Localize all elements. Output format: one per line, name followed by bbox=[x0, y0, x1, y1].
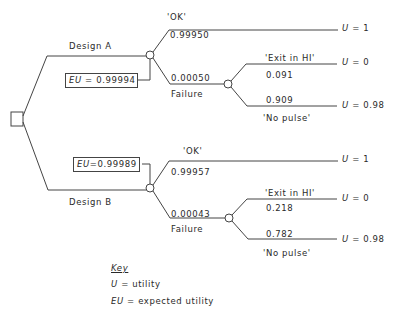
failure-prob-a: 0.00050 bbox=[171, 74, 210, 83]
key-item-eu: EU = expected utility bbox=[111, 297, 214, 306]
chance-node-failure-a bbox=[224, 80, 232, 88]
key-item-u: U = utility bbox=[111, 280, 161, 289]
decision-node-square bbox=[11, 112, 23, 126]
exit-prob-b: 0.218 bbox=[266, 204, 293, 213]
utility-no-pulse-a: U = 0.98 bbox=[342, 101, 385, 110]
design-b-label: Design B bbox=[69, 198, 112, 207]
chance-node-design-a bbox=[146, 51, 154, 59]
utility-exit-a: U = 0 bbox=[342, 58, 369, 67]
no-pulse-label-b: 'No pulse' bbox=[263, 249, 311, 258]
no-pulse-prob-b: 0.782 bbox=[266, 230, 293, 239]
chance-node-failure-b bbox=[225, 214, 233, 222]
eu-box-design-a: EU = 0.99994 bbox=[65, 73, 138, 88]
utility-ok-a: U = 1 bbox=[342, 24, 369, 33]
failure-label-a: Failure bbox=[171, 90, 203, 99]
chance-node-design-b bbox=[146, 184, 154, 192]
exit-label-b: 'Exit in HI' bbox=[265, 189, 315, 198]
utility-no-pulse-b: U = 0.98 bbox=[342, 235, 385, 244]
ok-label-a: 'OK' bbox=[167, 13, 186, 22]
eu-value: = 0.99994 bbox=[85, 75, 135, 85]
exit-prob-a: 0.091 bbox=[266, 71, 293, 80]
key-title: Key bbox=[111, 264, 128, 273]
eu-box-design-b: EU=0.99989 bbox=[73, 157, 140, 172]
ok-label-b: 'OK' bbox=[183, 147, 202, 156]
ok-prob-b: 0.99957 bbox=[171, 168, 210, 177]
eu-value: =0.99989 bbox=[90, 159, 137, 169]
no-pulse-label-a: 'No pulse' bbox=[263, 114, 311, 123]
utility-ok-b: U = 1 bbox=[342, 155, 369, 164]
eu-symbol: EU bbox=[69, 75, 82, 85]
eu-symbol: EU bbox=[77, 159, 90, 169]
failure-label-b: Failure bbox=[171, 225, 203, 234]
no-pulse-prob-a: 0.909 bbox=[266, 96, 293, 105]
design-a-label: Design A bbox=[69, 42, 112, 51]
failure-prob-b: 0.00043 bbox=[171, 210, 210, 219]
ok-prob-a: 0.99950 bbox=[170, 31, 209, 40]
exit-label-a: 'Exit in HI' bbox=[265, 54, 315, 63]
utility-exit-b: U = 0 bbox=[342, 194, 369, 203]
